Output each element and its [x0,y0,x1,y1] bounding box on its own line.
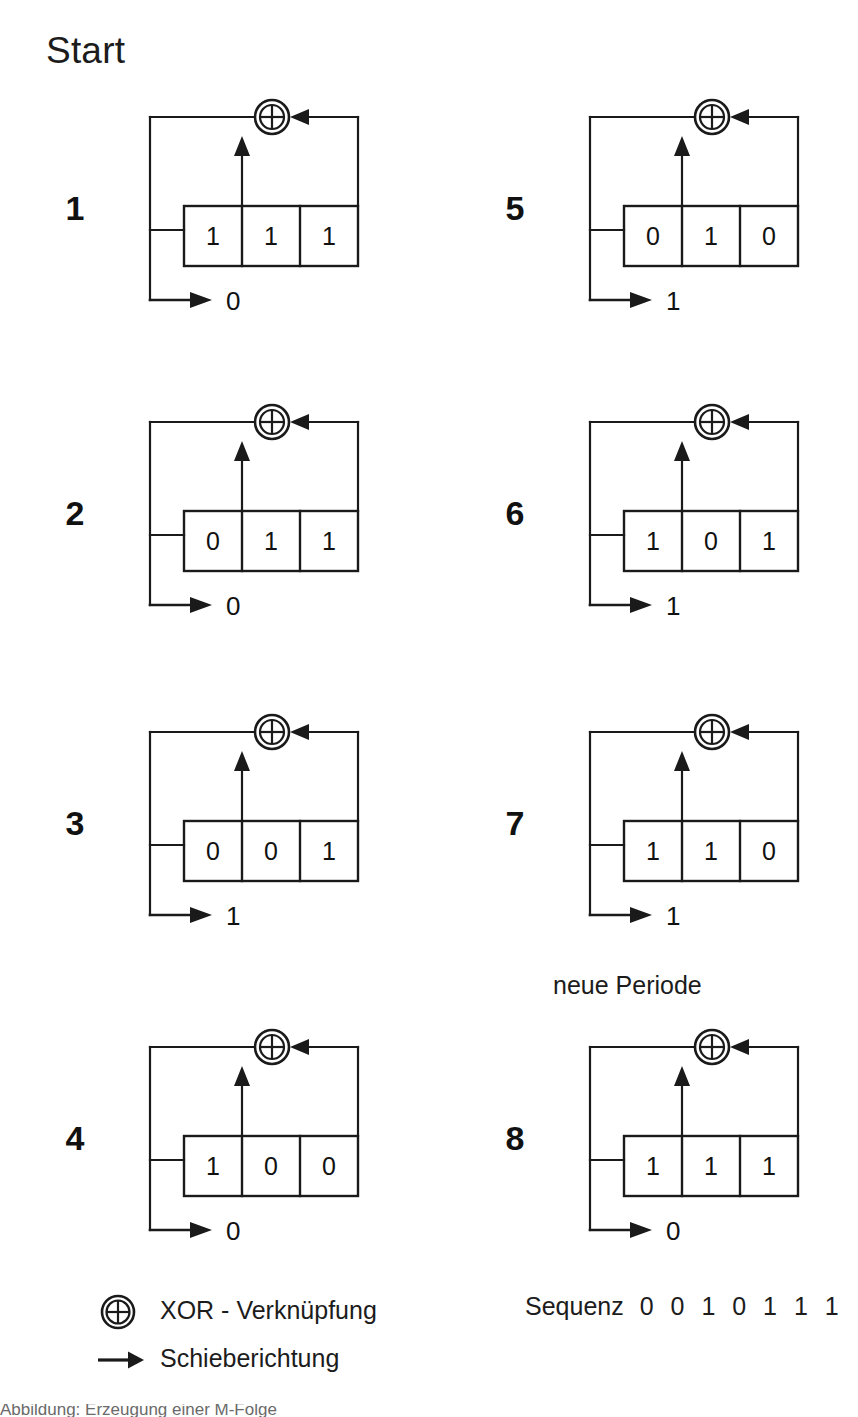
output-bit: 0 [226,1216,240,1246]
lfsr-step: 30011 [55,700,385,930]
legend-label-shift: Schieberichtung [160,1344,339,1373]
register-cell-value: 1 [762,527,776,555]
xor-gate-icon [255,100,289,134]
lfsr-schematic: 1110 [495,1015,825,1250]
lfsr-step: 61011 [495,390,825,620]
lfsr-step: 71101 [495,700,825,930]
legend-label-xor: XOR - Verknüpfung [160,1296,377,1325]
register-cell-value: 1 [322,527,336,555]
register-cell-value: 1 [646,527,660,555]
register-cell-value: 1 [704,222,718,250]
output-bit: 1 [666,901,680,931]
output-bit: 1 [666,591,680,621]
lfsr-schematic: 0101 [495,85,825,320]
lfsr-step: 41000 [55,1015,385,1245]
xor-gate-icon [695,1030,729,1064]
register-cell-value: 1 [704,1152,718,1180]
register-cell-value: 1 [206,222,220,250]
sequence-label: Sequenz [525,1292,624,1320]
arrow-right-icon [96,1338,154,1382]
xor-gate-icon [695,100,729,134]
xor-gate-icon [695,715,729,749]
xor-gate-icon [255,405,289,439]
register-cell-value: 1 [206,1152,220,1180]
sequence-bits: 0 0 1 0 1 1 1 [640,1292,844,1320]
register-cell-value: 0 [206,527,220,555]
register-cell-value: 1 [704,837,718,865]
register-cell-value: 0 [264,837,278,865]
register-cell-value: 0 [206,837,220,865]
register-cell-value: 1 [264,222,278,250]
lfsr-schematic: 1110 [55,85,385,320]
lfsr-schematic: 0011 [55,700,385,935]
lfsr-step: 20110 [55,390,385,620]
lfsr-step: 50101 [495,85,825,315]
lfsr-schematic: 1000 [55,1015,385,1250]
register-cell-value: 1 [646,1152,660,1180]
output-bit: 0 [226,286,240,316]
register-cell-value: 0 [646,222,660,250]
output-bit: 1 [226,901,240,931]
register-cell-value: 1 [762,1152,776,1180]
output-bit: 0 [666,1216,680,1246]
new-period-label: neue Periode [553,971,702,1000]
xor-gate-icon [255,1030,289,1064]
legend: XOR - Verknüpfung Schieberichtung [96,1290,516,1400]
register-cell-value: 1 [646,837,660,865]
lfsr-schematic: 0110 [55,390,385,625]
lfsr-step: 11110 [55,85,385,315]
register-cell-value: 1 [322,837,336,865]
register-cell-value: 0 [762,837,776,865]
lfsr-step: 8neue Periode1110 [495,1015,825,1245]
register-cell-value: 0 [704,527,718,555]
page-title: Start [46,30,125,72]
output-sequence: Sequenz0 0 1 0 1 1 1 [525,1292,844,1321]
register-cell-value: 1 [322,222,336,250]
register-cell-value: 0 [762,222,776,250]
output-bit: 0 [226,591,240,621]
xor-circle-icon [96,1290,154,1334]
xor-gate-icon [255,715,289,749]
register-cell-value: 1 [264,527,278,555]
register-cell-value: 0 [322,1152,336,1180]
diagram-page: Start 1111020110300114100050101610117110… [0,0,858,1417]
lfsr-schematic: 1011 [495,390,825,625]
xor-gate-icon [695,405,729,439]
footer-caption-fragment: Abbildung: Erzeugung einer M-Folge [0,1404,858,1417]
register-cell-value: 0 [264,1152,278,1180]
lfsr-schematic: 1101 [495,700,825,935]
output-bit: 1 [666,286,680,316]
